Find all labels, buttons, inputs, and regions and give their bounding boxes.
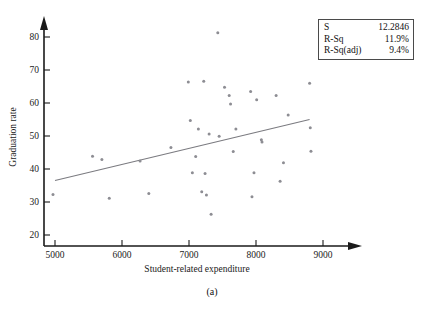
data-point [100, 158, 103, 161]
data-point [282, 161, 285, 164]
data-point [191, 171, 194, 174]
stats-row: S12.2846 [324, 22, 409, 34]
stats-row: R-Sq11.9% [324, 34, 409, 46]
y-tick-label: 80 [30, 32, 40, 42]
data-point [216, 31, 219, 34]
regression-fit-line [55, 120, 310, 181]
data-point [204, 172, 207, 175]
data-point [197, 128, 200, 131]
data-point [51, 193, 54, 196]
data-point [309, 150, 312, 153]
x-tick-label: 8000 [247, 250, 266, 260]
data-point [205, 194, 208, 197]
x-tick-label: 9000 [314, 250, 333, 260]
data-point [261, 140, 264, 143]
data-point [229, 102, 232, 105]
regression-stats-box: S12.2846R-Sq11.9%R-Sq(adj)9.4% [318, 19, 414, 60]
y-tick-label: 60 [30, 98, 40, 108]
x-tick-label: 6000 [113, 250, 132, 260]
x-axis-title: Student-related expenditure [144, 264, 249, 274]
y-tick-label: 50 [30, 131, 40, 141]
data-point [189, 119, 192, 122]
data-point [279, 180, 282, 183]
data-point [223, 86, 226, 89]
data-point [249, 90, 252, 93]
data-point [91, 155, 94, 158]
stats-label: S [324, 22, 329, 34]
data-point [228, 94, 231, 97]
data-point [287, 113, 290, 116]
x-axis-arrow-icon [348, 242, 362, 250]
stats-label: R-Sq(adj) [324, 45, 361, 57]
scatter-plot-figure: 50006000700080009000 20304050607080 Stud… [0, 0, 424, 310]
stats-label: R-Sq [324, 34, 344, 46]
axes-group [40, 16, 362, 250]
data-points-group [51, 31, 312, 216]
y-tick-label: 70 [30, 65, 40, 75]
y-axis-arrow-icon [40, 16, 48, 30]
data-point [108, 197, 111, 200]
y-axis-ticks: 20304050607080 [30, 32, 51, 240]
stats-row: R-Sq(adj)9.4% [324, 45, 409, 57]
data-point [208, 133, 211, 136]
y-tick-label: 30 [30, 197, 40, 207]
stats-value: 11.9% [379, 34, 409, 46]
x-tick-label: 7000 [180, 250, 199, 260]
x-tick-label: 5000 [46, 250, 65, 260]
y-tick-label: 20 [30, 230, 40, 240]
data-point [252, 171, 255, 174]
data-point [275, 94, 278, 97]
data-point [200, 190, 203, 193]
data-point [202, 80, 205, 83]
data-point [169, 146, 172, 149]
data-point [147, 192, 150, 195]
data-point [218, 135, 221, 138]
data-point [234, 128, 237, 131]
data-point [255, 98, 258, 101]
data-point [139, 160, 142, 163]
data-point [187, 80, 190, 83]
data-point [232, 150, 235, 153]
stats-value: 12.2846 [372, 22, 409, 34]
regression-line [55, 120, 310, 181]
data-point [210, 213, 213, 216]
data-point [250, 195, 253, 198]
y-tick-label: 40 [30, 164, 40, 174]
data-point [194, 155, 197, 158]
y-axis-title: Graduation rate [8, 107, 18, 166]
stats-value: 9.4% [383, 45, 409, 57]
data-point [308, 82, 311, 85]
x-axis-ticks: 50006000700080009000 [46, 240, 333, 260]
data-point [309, 126, 312, 129]
figure-caption: (a) [0, 286, 424, 297]
